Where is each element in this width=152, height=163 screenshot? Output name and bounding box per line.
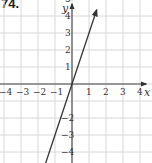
- y-tick-label: −3: [61, 130, 75, 140]
- x-tick-label: −2: [33, 87, 46, 97]
- y-tick-label: −2: [61, 113, 74, 123]
- x-tick-label: 1: [86, 87, 92, 97]
- tick-labels: −5−4−3−2−11234554321−2−3−4−5: [0, 0, 152, 163]
- axes: xy: [0, 2, 151, 163]
- x-tick-label: −4: [0, 87, 13, 97]
- y-tick-label: 3: [65, 28, 71, 38]
- x-axis-label: x: [144, 86, 151, 99]
- y-tick-label: 5: [65, 0, 71, 4]
- grid-border: [0, 0, 152, 163]
- x-tick-label: −1: [50, 87, 63, 97]
- x-tick-label: 3: [120, 87, 126, 97]
- y-tick-label: 2: [65, 45, 71, 55]
- x-tick-label: −3: [16, 87, 30, 97]
- coordinate-plane: xy −5−4−3−2−11234554321−2−3−4−5: [0, 0, 152, 163]
- y-tick-label: −4: [61, 147, 75, 157]
- x-tick-label: 2: [103, 87, 109, 97]
- y-tick-label: 1: [65, 62, 71, 72]
- y-tick-label: 4: [65, 11, 71, 21]
- x-tick-label: 4: [137, 87, 143, 97]
- grid-lines: [0, 0, 152, 163]
